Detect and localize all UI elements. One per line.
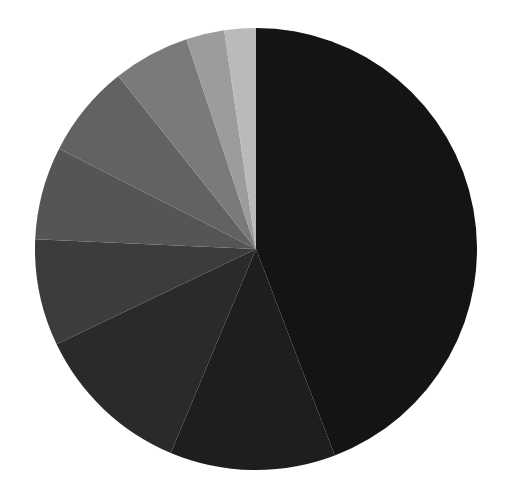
pie-slices: Slice 1: 44.2%Slice 2: 12.1%Slice 3: 11.… bbox=[35, 28, 477, 470]
pie-chart: Slice 1: 44.2%Slice 2: 12.1%Slice 3: 11.… bbox=[0, 0, 527, 500]
pie-chart-svg: Slice 1: 44.2%Slice 2: 12.1%Slice 3: 11.… bbox=[0, 0, 527, 500]
